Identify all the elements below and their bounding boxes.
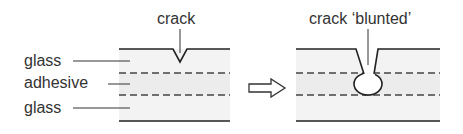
adhesive-label: adhesive <box>24 74 88 91</box>
right-panel-after: crack ‘blunted’ <box>296 10 440 121</box>
crack-label: crack <box>157 10 196 27</box>
right-arrow-icon <box>249 79 285 97</box>
adhesive-layer <box>119 73 230 95</box>
left-panel-before: crack glass adhesive glass <box>24 10 230 121</box>
laminated-glass-crack-diagram: crack glass adhesive glass crack ‘blunte… <box>0 0 463 134</box>
glass-top-label: glass <box>24 52 61 69</box>
bubble-neck-mask <box>363 70 375 76</box>
blunted-crack-bubble <box>354 73 382 95</box>
crack-blunted-label: crack ‘blunted’ <box>309 10 411 27</box>
glass-bottom-label: glass <box>24 99 61 116</box>
